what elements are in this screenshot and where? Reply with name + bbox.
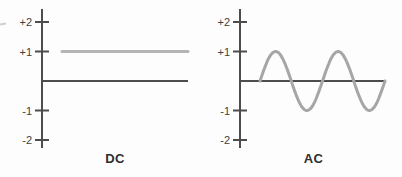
- ac-chart-title: AC: [240, 151, 387, 166]
- ac-y-tick-label: +2: [217, 16, 230, 28]
- ac-y-tick-label: +1: [217, 46, 230, 58]
- ac-y-tick-label: -1: [220, 105, 230, 117]
- dc-ac-waveform-figure: +2+1-1-2 DC +2+1-1-2 AC: [0, 0, 402, 177]
- ac-y-tick-label: -2: [220, 134, 230, 146]
- ac-chart: +2+1-1-2 AC: [0, 0, 402, 177]
